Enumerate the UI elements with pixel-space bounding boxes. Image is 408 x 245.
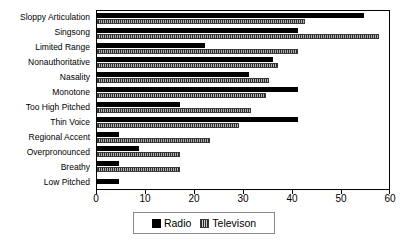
bar-television (97, 93, 266, 98)
bar-television (97, 123, 239, 128)
y-axis-tick-label: Singsong (0, 25, 93, 40)
bar-television (97, 152, 180, 157)
legend-label-radio: Radio (164, 218, 191, 229)
y-axis-tick-label-text: Nonauthoritative (28, 58, 90, 67)
bar-television (97, 108, 251, 113)
y-axis-tick-label-text: Low Pitched (44, 178, 90, 187)
bar-television (97, 49, 298, 54)
y-axis-tick-label-text: Overpronounced (27, 148, 90, 157)
y-axis-tick-label-text: Regional Accent (29, 133, 90, 142)
bar-row (97, 115, 389, 130)
legend-entry-television: Televison (200, 218, 256, 229)
bar-row (97, 159, 389, 174)
bar-radio (97, 72, 249, 77)
bar-row (97, 41, 389, 56)
bar-radio (97, 13, 364, 18)
y-axis-labels: Sloppy Articulation Singsong Limited Ran… (0, 10, 93, 190)
bar-radio (97, 102, 180, 107)
bar-radio (97, 117, 298, 122)
radio-swatch-icon (152, 219, 161, 228)
bar-radio (97, 179, 119, 184)
bar-row (97, 26, 389, 41)
bar-television (97, 34, 379, 39)
y-axis-tick-label-text: Breathy (61, 163, 90, 172)
x-axis-labels: 0102030405060 (96, 194, 390, 208)
x-axis-tick-label: 40 (286, 194, 297, 204)
y-axis-tick-label: Thin Voice (0, 115, 93, 130)
bar-television (97, 63, 278, 68)
x-axis-tick-label: 30 (237, 194, 248, 204)
bar-row (97, 85, 389, 100)
y-axis-tick-label: Low Pitched (0, 175, 93, 190)
x-axis-tick-label: 50 (335, 194, 346, 204)
y-axis-tick-label-text: Singsong (55, 28, 90, 37)
television-swatch-icon (200, 219, 209, 228)
bar-radio (97, 87, 298, 92)
bar-radio (97, 43, 205, 48)
y-axis-tick-label-text: Nasality (60, 73, 90, 82)
y-axis-tick-label-text: Limited Range (35, 43, 90, 52)
bar-radio (97, 132, 119, 137)
bar-radio (97, 146, 139, 151)
bar-row (97, 100, 389, 115)
y-axis-tick-label: Overpronounced (0, 145, 93, 160)
plot-area (96, 10, 390, 190)
y-axis-tick-label-text: Monotone (52, 88, 90, 97)
bar-radio (97, 57, 273, 62)
bar-row (97, 70, 389, 85)
y-axis-tick-label-text: Sloppy Articulation (20, 13, 90, 22)
x-axis-tick-label: 60 (384, 194, 395, 204)
y-axis-tick-label: Breathy (0, 160, 93, 175)
legend-entry-radio: Radio (152, 218, 191, 229)
bar-row (97, 144, 389, 159)
legend-label-television: Televison (212, 218, 256, 229)
x-axis-tick-label: 10 (139, 194, 150, 204)
bar-television (97, 19, 305, 24)
bar-television (97, 138, 210, 143)
x-axis-tick-label: 0 (93, 194, 99, 204)
chart-legend: Radio Televison (133, 212, 275, 234)
y-axis-tick-label: Monotone (0, 85, 93, 100)
bar-television (97, 167, 180, 172)
y-axis-tick-label-text: Thin Voice (50, 118, 90, 127)
bar-row (97, 174, 389, 189)
y-axis-tick-label: Limited Range (0, 40, 93, 55)
x-axis-tick-label: 20 (188, 194, 199, 204)
bar-chart: Sloppy Articulation Singsong Limited Ran… (0, 0, 408, 245)
bar-row (97, 11, 389, 26)
y-axis-tick-label: Nasality (0, 70, 93, 85)
bar-radio (97, 161, 119, 166)
y-axis-tick-label: Sloppy Articulation (0, 10, 93, 25)
y-axis-tick-label-text: Too High Pitched (26, 103, 90, 112)
y-axis-tick-label: Regional Accent (0, 130, 93, 145)
bar-rows (97, 11, 389, 189)
bar-radio (97, 28, 298, 33)
bar-television (97, 78, 269, 83)
y-axis-tick-label: Too High Pitched (0, 100, 93, 115)
bar-row (97, 55, 389, 70)
bar-row (97, 130, 389, 145)
y-axis-tick-label: Nonauthoritative (0, 55, 93, 70)
